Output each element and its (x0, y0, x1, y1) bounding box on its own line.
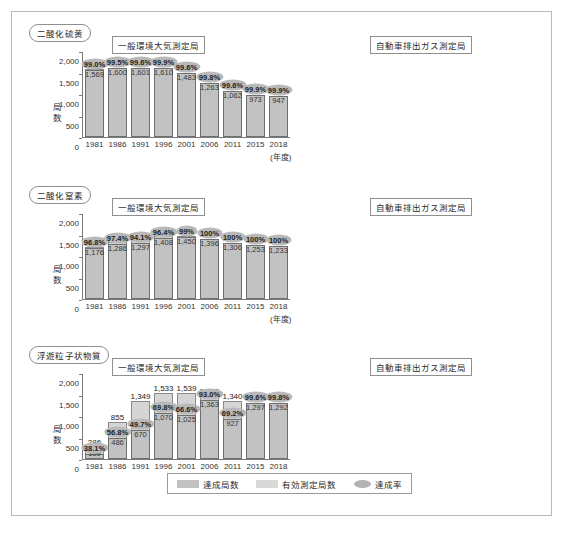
achieved-bar[interactable] (177, 73, 196, 137)
achieved-value-label: 1,297 (131, 243, 150, 252)
bar-column[interactable]: 1,45099%1,465 (177, 214, 196, 299)
achieved-value-label: 1,292 (269, 403, 288, 412)
bar-column[interactable]: 92769.2%1,340 (223, 374, 242, 459)
panel-title: 自動車排出ガス測定局 (370, 358, 472, 376)
achieved-value-label: 1,408 (154, 238, 173, 247)
total-bar[interactable]: 1,585 (85, 69, 104, 137)
bar-column[interactable]: 94799.9%948 (269, 52, 288, 137)
y-tick-mark (79, 95, 82, 96)
bar-column[interactable]: 1,29794.1%1,378 (131, 214, 150, 299)
achieved-bar[interactable] (154, 68, 173, 137)
bar-column[interactable]: 1,60099.5%1,608 (108, 52, 127, 137)
x-tick-label: 2001 (177, 302, 196, 311)
total-value-label: 1,340 (222, 392, 242, 401)
x-tick-label: 2001 (177, 140, 196, 149)
bar-column[interactable]: 1,306100%1,308 (223, 214, 242, 299)
panel-title: 一般環境大気測定局 (112, 198, 205, 216)
rate-label: 93.0% (196, 389, 223, 400)
bar-column[interactable]: 10938.1%286 (85, 374, 104, 459)
panel-no2-general: 一般環境大気測定局 局数 2,0001,5001,00050001,17696.… (26, 182, 298, 344)
total-bar[interactable]: 1,489 (177, 73, 196, 137)
bar-column[interactable]: 97399.9%974 (246, 52, 265, 137)
bar-column[interactable]: 1,29799.6%1,302 (246, 374, 265, 459)
achieved-bar[interactable] (108, 68, 127, 137)
achieved-value-label: 1,450 (177, 237, 196, 246)
x-tick-label: 1991 (131, 140, 150, 149)
achieved-value-label: 1,253 (246, 245, 265, 254)
x-axis-line (82, 459, 290, 460)
x-tick-label: 1986 (108, 302, 127, 311)
total-value-label: 855 (111, 413, 124, 422)
y-tick-label: 0 (75, 143, 79, 152)
x-axis-ticks: 198119861991199620012006201120152018 (83, 140, 290, 149)
panel-so2-automobile: 自動車排出ガス測定局 局数 45030015004095.2%424898.0%… (298, 20, 550, 182)
total-value-label: 1,349 (130, 392, 150, 401)
achieved-value-label: 1,569 (85, 70, 104, 79)
legend-label-valid: 有効測定局数 (282, 478, 336, 490)
total-bar[interactable]: 1,607 (131, 68, 150, 137)
bar-column[interactable]: 1,26399.8%1,265 (200, 52, 219, 137)
achieved-value-label: 927 (226, 419, 239, 428)
x-tick-label: 2011 (223, 140, 242, 149)
legend-item-achieved: 達成局数 (177, 478, 239, 490)
achieved-bar[interactable] (85, 70, 104, 137)
x-axis-unit: (年度) (270, 313, 291, 324)
x-tick-label: 1996 (154, 302, 173, 311)
legend-label-achieved: 達成局数 (203, 478, 239, 490)
bar-column[interactable]: 1,40896.4%1,460 (154, 214, 173, 299)
achieved-bar[interactable] (154, 238, 173, 299)
y-tick-label: 500 (66, 283, 79, 292)
rate-label: 69.2% (219, 408, 246, 419)
bar-column[interactable]: 1,396100%1,397 (200, 214, 219, 299)
legend-item-valid: 有効測定局数 (256, 478, 336, 490)
bar-column[interactable]: 1,07069.8%1,533 (154, 374, 173, 459)
bar-column[interactable]: 1,17696.8%1,215 (85, 214, 104, 299)
achieved-bar[interactable] (177, 237, 196, 299)
x-tick-label: 1996 (154, 140, 173, 149)
x-tick-label: 2015 (246, 462, 265, 471)
y-tick-mark (79, 236, 82, 237)
bar-group: 1,17696.8%1,2151,28697.4%1,3211,29794.1%… (83, 214, 290, 299)
panel-no2-automobile: 自動車排出ガス測定局 局数 450300150016465.9%24921275… (298, 182, 550, 344)
bar-column[interactable]: 1,06299.6%1,066 (223, 52, 242, 137)
bar-column[interactable]: 1,48399.6%1,489 (177, 52, 196, 137)
y-tick-mark (79, 52, 82, 53)
total-bar[interactable]: 1,608 (108, 68, 127, 137)
bar-column[interactable]: 1,60199.6%1,607 (131, 52, 150, 137)
achieved-bar[interactable] (131, 68, 150, 137)
x-tick-label: 2006 (200, 302, 219, 311)
y-tick-mark (79, 417, 82, 418)
achieved-value-label: 1,600 (108, 68, 127, 77)
x-tick-label: 2001 (177, 462, 196, 471)
rate-label: 99% (176, 225, 197, 236)
x-tick-label: 2015 (246, 302, 265, 311)
y-tick-label: 1,000 (59, 100, 79, 109)
x-tick-label: 2018 (269, 140, 288, 149)
achieved-value-label: 1,483 (177, 73, 196, 82)
bar-column[interactable]: 1,28697.4%1,321 (108, 214, 127, 299)
bar-column[interactable]: 67049.7%1,349 (131, 374, 150, 459)
achieved-value-label: 1,070 (154, 413, 173, 422)
bar-column[interactable]: 1,02566.6%1,539 (177, 374, 196, 459)
y-tick-mark (79, 279, 82, 280)
bar-column[interactable]: 1,233100%1,233 (269, 214, 288, 299)
achieved-value-label: 1,306 (223, 243, 242, 252)
x-axis-unit: (年度) (270, 151, 291, 162)
x-tick-label: 2006 (200, 462, 219, 471)
y-tick-mark (79, 300, 82, 301)
achieved-swatch-icon (177, 480, 199, 488)
panel-title: 自動車排出ガス測定局 (370, 198, 472, 216)
achieved-value-label: 486 (111, 438, 124, 447)
bar-column[interactable]: 1,36393.0%1,465 (200, 374, 219, 459)
bar-column[interactable]: 1,253100%1,253 (246, 214, 265, 299)
x-tick-label: 2015 (246, 140, 265, 149)
rate-label: 99.8% (265, 392, 292, 403)
achieved-bar[interactable] (200, 239, 219, 299)
bar-column[interactable]: 1,29299.8%1,294 (269, 374, 288, 459)
achieved-value-label: 1,263 (200, 83, 219, 92)
bar-column[interactable]: 48656.8%855 (108, 374, 127, 459)
y-tick-mark (79, 460, 82, 461)
total-bar[interactable]: 1,612 (154, 68, 173, 137)
bar-column[interactable]: 1,56999.0%1,585 (85, 52, 104, 137)
bar-column[interactable]: 1,61099.9%1,612 (154, 52, 173, 137)
